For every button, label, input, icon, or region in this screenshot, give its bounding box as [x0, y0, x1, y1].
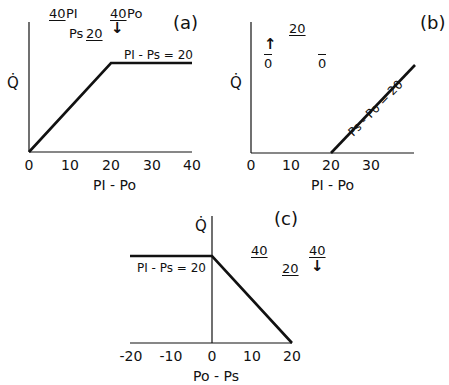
panel-c-x-tick: 10: [243, 349, 261, 363]
panel-c-x-tick: -10: [160, 349, 183, 363]
panel-a-po-label: Po: [127, 7, 142, 20]
panel-c-down-arrow-icon: ↓: [311, 259, 324, 274]
panel-c-y-axis-label: Q̇: [195, 219, 207, 234]
panel-a-label: (a): [173, 14, 198, 32]
panel-c-left-value: 40: [251, 244, 268, 257]
panel-c-x-tick: 0: [208, 349, 217, 363]
panel-c-x-tick: 20: [283, 349, 301, 363]
panel-a-pi-label: PI: [66, 7, 78, 20]
panel-c-mid-value: 20: [282, 262, 299, 275]
panel-b-mid-value: 20: [289, 22, 306, 35]
panel-a-ps-value: 20: [86, 27, 103, 40]
panel-b-y-axis-label: Q̇: [230, 76, 242, 91]
panel-a-ps-label: Ps: [69, 27, 83, 40]
panel-a-axes: [29, 22, 192, 152]
panel-a-y-axis-label: Q̇: [7, 76, 19, 91]
panel-a-x-tick: 40: [183, 158, 201, 172]
panel-a-down-arrow-icon: ↓: [111, 21, 124, 36]
panel-c-right-value: 40: [309, 244, 326, 257]
panel-a-x-tick: 20: [102, 158, 120, 172]
panel-c-axes: [130, 216, 292, 343]
panel-b-label: (b): [420, 14, 445, 32]
panel-b-x-tick: 10: [282, 158, 300, 172]
panel-a-curve-annotation: PI - Ps = 20: [124, 49, 193, 61]
panel-b-up-arrow-icon: ↑: [264, 37, 277, 52]
panel-b-x-axis-label: PI - Po: [311, 178, 354, 192]
panel-c-label: (c): [274, 210, 298, 228]
panel-c-x-axis-label: Po - Ps: [193, 369, 239, 383]
panel-a-x-tick: 0: [25, 158, 34, 172]
panel-a-x-axis-label: PI - Po: [93, 178, 136, 192]
panel-a-curve: [29, 63, 192, 152]
panel-b-right-value: 0: [318, 54, 326, 70]
panel-a-x-tick: 10: [61, 158, 79, 172]
diagram-canvas: [0, 0, 449, 385]
panel-b-x-tick: 0: [247, 158, 256, 172]
panel-a-x-tick: 30: [143, 158, 161, 172]
panel-b-left-value: 0: [264, 54, 272, 70]
panel-c-curve-annotation: PI - Ps = 20: [137, 262, 206, 274]
panel-b-x-tick: 30: [362, 158, 380, 172]
panel-b-x-tick: 20: [322, 158, 340, 172]
panel-a-pi-value: 40: [49, 7, 66, 20]
panel-c-x-tick: -20: [120, 349, 143, 363]
